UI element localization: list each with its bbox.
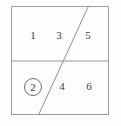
region-label-1: 1 bbox=[26, 30, 40, 41]
region-label-2-circled: 2 bbox=[24, 78, 42, 96]
diagram-vector-layer bbox=[0, 0, 121, 126]
region-label-4: 4 bbox=[55, 81, 69, 92]
region-label-6: 6 bbox=[82, 81, 96, 92]
region-label-5: 5 bbox=[81, 30, 95, 41]
region-label-3: 3 bbox=[52, 30, 66, 41]
diagram-canvas: 1 3 5 2 4 6 bbox=[0, 0, 121, 126]
